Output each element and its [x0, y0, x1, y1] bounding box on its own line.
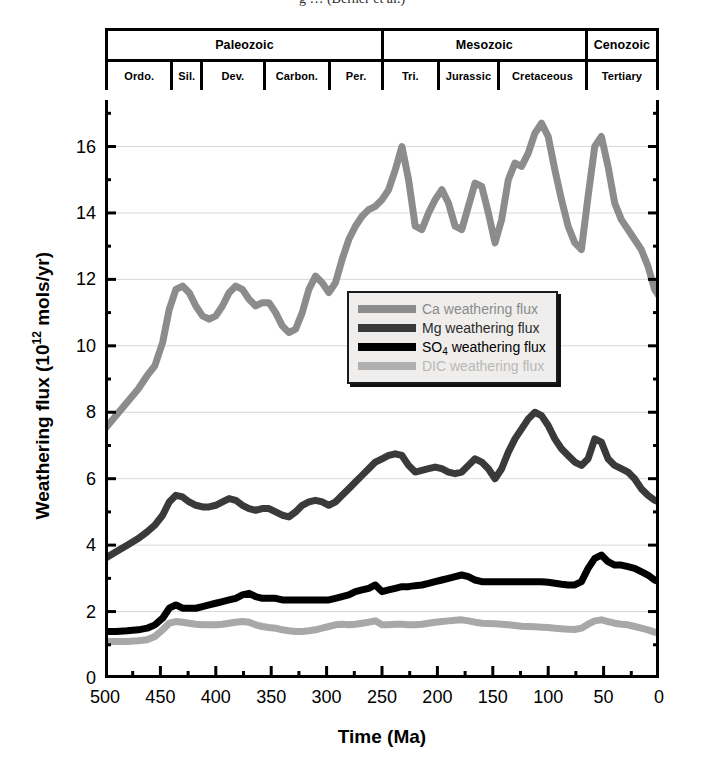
legend-item-so4: SO4 weathering flux [358, 337, 547, 356]
timescale-era-mesozoic: Mesozoic [381, 31, 585, 59]
timescale-era-cenozoic: Cenozoic [585, 31, 656, 59]
y-tick-label-14: 14 [76, 202, 96, 223]
x-tick-label-250: 250 [367, 687, 397, 708]
timescale-period-tri: Tri. [381, 62, 437, 90]
timescale-label: Tertiary [602, 70, 642, 82]
timescale-period-ordo: Ordo. [108, 62, 170, 90]
legend-swatch-so4 [358, 343, 416, 351]
x-tick-label-100: 100 [533, 687, 563, 708]
legend-swatch-ca [358, 305, 416, 313]
x-tick-label-300: 300 [312, 687, 342, 708]
timescale-period-row: Ordo.Sil.Dev.Carbon.Per.Tri.JurassicCret… [108, 59, 656, 90]
y-tick-label-16: 16 [76, 136, 96, 157]
x-tick-label-150: 150 [478, 687, 508, 708]
timescale-period-jurassic: Jurassic [437, 62, 497, 90]
timescale-era-paleozoic: Paleozoic [108, 31, 381, 59]
timescale-label: Cenozoic [594, 38, 650, 52]
legend-label-ca: Ca weathering flux [422, 302, 538, 316]
y-tick-label-8: 8 [86, 402, 96, 423]
plot-svg [105, 100, 659, 678]
series-line-dic [105, 620, 659, 642]
weathering-flux-figure: g … (Berner et al.) PaleozoicMesozoicCen… [0, 0, 704, 770]
x-axis-title: Time (Ma) [105, 726, 659, 748]
x-tick-label-0: 0 [654, 687, 664, 708]
legend-label-dic: DIC weathering flux [422, 359, 544, 373]
legend-label-mg: Mg weathering flux [422, 321, 540, 335]
x-tick-label-450: 450 [145, 687, 175, 708]
timescale-period-cretaceous: Cretaceous [497, 62, 585, 90]
y-tick-label-6: 6 [86, 468, 96, 489]
timescale-label: Mesozoic [456, 38, 513, 52]
y-tick-label-12: 12 [76, 269, 96, 290]
timescale-label: Dev. [221, 70, 244, 82]
timescale-period-carbon: Carbon. [263, 62, 329, 90]
timescale-period-tertiary: Tertiary [585, 62, 656, 90]
legend-item-mg: Mg weathering flux [358, 318, 547, 337]
timescale-label: Cretaceous [512, 70, 573, 82]
x-tick-label-50: 50 [594, 687, 614, 708]
y-axis-title: Weathering flux (1012 mols/yr) [30, 106, 53, 666]
legend-item-dic: DIC weathering flux [358, 356, 547, 375]
caption-sliver-text: g … (Berner et al.) [0, 0, 704, 7]
timescale-label: Per. [346, 70, 367, 82]
y-tick-label-0: 0 [86, 668, 96, 689]
timescale-era-row: PaleozoicMesozoicCenozoic [108, 31, 656, 59]
chart-legend: Ca weathering fluxMg weathering fluxSO4 … [347, 291, 558, 384]
series-line-mg [105, 412, 659, 558]
x-tick-label-200: 200 [422, 687, 452, 708]
y-tick-label-2: 2 [86, 601, 96, 622]
x-tick-label-400: 400 [201, 687, 231, 708]
y-tick-label-4: 4 [86, 535, 96, 556]
x-tick-label-500: 500 [90, 687, 120, 708]
legend-label-so4: SO4 weathering flux [422, 340, 546, 354]
timescale-period-sil: Sil. [170, 62, 200, 90]
timescale-label: Tri. [402, 70, 419, 82]
timescale-label: Paleozoic [215, 38, 274, 52]
caption-sliver: g … (Berner et al.) [0, 0, 704, 18]
geologic-timescale: PaleozoicMesozoicCenozoic Ordo.Sil.Dev.C… [105, 28, 659, 90]
plot-area: 0246810121416500450400350300250200150100… [105, 100, 659, 678]
timescale-period-per: Per. [328, 62, 381, 90]
timescale-label: Carbon. [276, 70, 318, 82]
y-tick-label-10: 10 [76, 335, 96, 356]
timescale-label: Sil. [178, 70, 195, 82]
legend-swatch-dic [358, 362, 416, 370]
timescale-label: Jurassic [446, 70, 491, 82]
timescale-period-dev: Dev. [200, 62, 262, 90]
timescale-label: Ordo. [124, 70, 154, 82]
legend-swatch-mg [358, 324, 416, 332]
legend-item-ca: Ca weathering flux [358, 299, 547, 318]
x-tick-label-350: 350 [256, 687, 286, 708]
